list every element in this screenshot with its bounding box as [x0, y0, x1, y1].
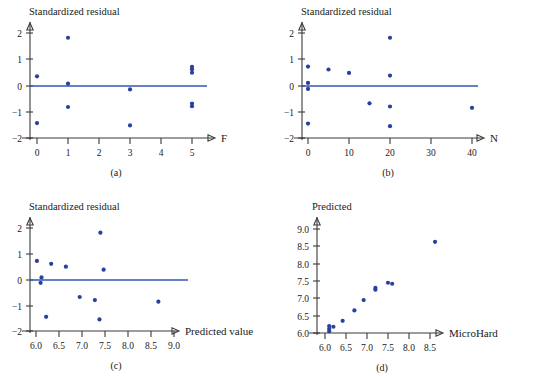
panel-c-xtick-80: 8.0 — [122, 341, 134, 351]
panel-c-caption: (c) — [110, 360, 121, 372]
panel-d-xtick-80: 8.0 — [403, 343, 415, 353]
panel-a-xtick-0: 0 — [35, 148, 40, 158]
data-point — [35, 259, 39, 263]
data-point — [35, 74, 39, 78]
data-point — [35, 121, 39, 125]
panel-c-ylabel: Standardized residual — [29, 201, 120, 212]
panel-c-xtick-65: 6.5 — [53, 341, 65, 351]
panel-b-xlabel: N — [490, 132, 498, 144]
data-point — [66, 36, 70, 40]
panel-b-ytick-2: 2 — [289, 29, 294, 39]
panel-c-ytick-0: 0 — [17, 276, 22, 286]
panel-b: Standardized residual 2 1 0 −1 −2 — [272, 0, 543, 188]
panel-d-ytick-85: 8.5 — [297, 242, 309, 252]
data-point — [98, 231, 102, 235]
panel-a-plot: Standardized residual 2 1 0 −1 −2 — [0, 0, 272, 188]
data-point — [97, 317, 101, 321]
data-point — [128, 123, 132, 127]
panel-a-caption: (a) — [110, 167, 121, 179]
data-point — [102, 268, 106, 272]
panel-d-ytick-65: 6.5 — [297, 312, 309, 322]
panel-d-x-ticks: 6.0 6.5 7.0 7.5 8.0 8.5 — [319, 333, 436, 353]
panel-b-ytick-1: 1 — [289, 55, 294, 65]
data-point — [156, 300, 160, 304]
data-point — [39, 281, 43, 285]
panel-a-ytick-0: 0 — [17, 82, 22, 92]
panel-d-ylabel: Predicted — [312, 201, 352, 212]
data-point — [66, 82, 70, 86]
panel-a-xtick-5: 5 — [190, 148, 195, 158]
data-point — [306, 65, 310, 69]
data-point — [327, 329, 331, 333]
panel-d-ytick-70: 7.0 — [297, 294, 309, 304]
panel-b-caption: (b) — [382, 167, 394, 179]
panel-b-xtick-20: 20 — [385, 148, 395, 158]
panel-d-ytick-75: 7.5 — [297, 277, 309, 287]
panel-b-plot: Standardized residual 2 1 0 −1 −2 — [272, 0, 543, 188]
panel-a-xtick-3: 3 — [128, 148, 133, 158]
data-point — [388, 73, 392, 77]
data-point — [64, 265, 68, 269]
panel-c-ytick-1: 1 — [17, 250, 22, 260]
panel-a-xlabel: F — [221, 132, 227, 144]
data-point — [326, 67, 330, 71]
panel-d-ytick-90: 9.0 — [297, 225, 309, 235]
panel-b-x-ticks: 0 10 20 30 40 — [306, 138, 477, 158]
data-point — [306, 81, 310, 85]
panel-a-xtick-1: 1 — [66, 148, 71, 158]
panel-b-xtick-40: 40 — [467, 148, 477, 158]
data-point — [331, 325, 335, 329]
panel-c-xtick-90: 9.0 — [168, 341, 180, 351]
panel-d-xtick-60: 6.0 — [319, 343, 331, 353]
data-point — [66, 105, 70, 109]
panel-a-ylabel: Standardized residual — [29, 6, 120, 17]
panel-a-axes — [22, 22, 215, 141]
data-point — [190, 104, 194, 108]
data-point — [390, 282, 394, 286]
panel-c-xtick-75: 7.5 — [99, 341, 111, 351]
panel-a: Standardized residual 2 1 0 −1 −2 — [0, 0, 272, 188]
panel-d-axes — [309, 217, 443, 336]
data-point — [373, 288, 377, 292]
panel-b-xtick-10: 10 — [344, 148, 354, 158]
residual-plot-figure: Standardized residual 2 1 0 −1 −2 — [0, 0, 543, 376]
panel-c-xlabel: Predicted value — [185, 325, 253, 337]
data-point — [347, 71, 351, 75]
panel-c-xtick-85: 8.5 — [145, 341, 157, 351]
panel-b-ytick-0: 0 — [289, 82, 294, 92]
data-point — [388, 36, 392, 40]
data-point — [388, 104, 392, 108]
data-point — [352, 308, 356, 312]
data-point — [78, 295, 82, 299]
data-point — [49, 262, 53, 266]
panel-b-ytick-neg2: −2 — [284, 134, 294, 144]
panel-b-points — [306, 36, 474, 129]
panel-b-ylabel: Standardized residual — [301, 6, 392, 17]
panel-c-plot: Standardized residual 2 1 0 −1 −2 — [0, 188, 272, 376]
panel-d-ytick-60: 6.0 — [297, 329, 309, 339]
panel-c-x-ticks: 6.0 6.5 7.0 7.5 8.0 8.5 9.0 — [30, 331, 180, 351]
panel-c-ytick-neg2: −2 — [12, 327, 22, 337]
panel-d-xtick-85: 8.5 — [424, 343, 436, 353]
panel-a-xtick-4: 4 — [159, 148, 164, 158]
panel-a-ytick-neg1: −1 — [12, 108, 22, 118]
panel-a-ytick-neg2: −2 — [12, 134, 22, 144]
panel-a-ytick-2: 2 — [17, 29, 22, 39]
data-point — [386, 281, 390, 285]
data-point — [470, 106, 474, 110]
panel-d-xtick-70: 7.0 — [361, 343, 373, 353]
panel-a-x-ticks: 0 1 2 3 4 5 — [35, 138, 195, 158]
panel-c-xtick-60: 6.0 — [30, 341, 42, 351]
panel-a-points — [35, 36, 194, 128]
panel-c-points — [35, 231, 161, 322]
data-point — [306, 87, 310, 91]
data-point — [128, 87, 132, 91]
data-point — [306, 121, 310, 125]
data-point — [93, 298, 97, 302]
data-point — [367, 101, 371, 105]
data-point — [39, 275, 43, 279]
data-point — [44, 315, 48, 319]
panel-d: Predicted 9.0 8.5 8.0 7.5 7.0 6. — [272, 188, 543, 376]
data-point — [190, 71, 194, 75]
data-point — [341, 319, 345, 323]
